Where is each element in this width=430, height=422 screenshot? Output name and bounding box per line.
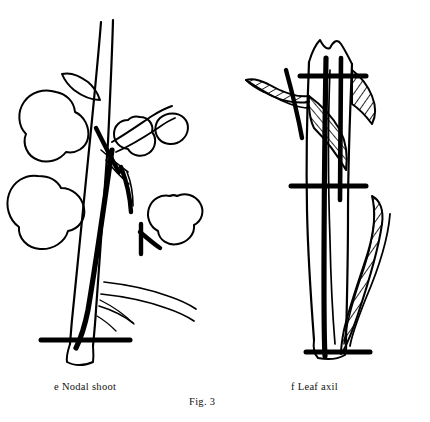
panel-f-caption: f Leaf axil — [291, 381, 338, 392]
shoot-lower-right-b — [101, 294, 194, 321]
marker-bar-f-vertical-1 — [324, 58, 326, 356]
leaf-lobe-lower-left — [7, 176, 84, 249]
figure-page: e Nodal shoot f Leaf axil Fig. 3 — [0, 0, 430, 422]
leaf-lobe-lower-right — [148, 194, 202, 244]
leaf-lobe-upper-left — [19, 90, 88, 161]
figure-number-caption: Fig. 3 — [189, 396, 215, 407]
panel-f-drawing — [246, 40, 390, 359]
marker-bar-e-2 — [121, 167, 131, 212]
leaf-blade-edge-2 — [350, 214, 390, 346]
marker-bar-f-vertical-2 — [340, 58, 341, 200]
leaf-narrow-right — [155, 114, 188, 145]
panel-e-caption: e Nodal shoot — [54, 381, 116, 392]
trunk-outline-right — [346, 64, 352, 340]
panel-e-drawing — [7, 20, 202, 365]
botanical-line-drawing — [0, 0, 430, 370]
trunk-top-edge — [309, 40, 352, 64]
trunk-inner-line — [329, 70, 336, 344]
marker-bar-e-1 — [76, 150, 112, 348]
stem-shading-2 — [97, 316, 116, 331]
stem-base — [67, 344, 94, 365]
